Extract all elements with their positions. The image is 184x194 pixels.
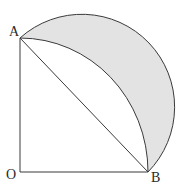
label-o: O <box>6 167 16 182</box>
label-a: A <box>9 24 20 39</box>
label-b: B <box>151 170 160 185</box>
geometry-diagram: A O B <box>0 0 184 194</box>
shaded-lune <box>20 14 175 172</box>
